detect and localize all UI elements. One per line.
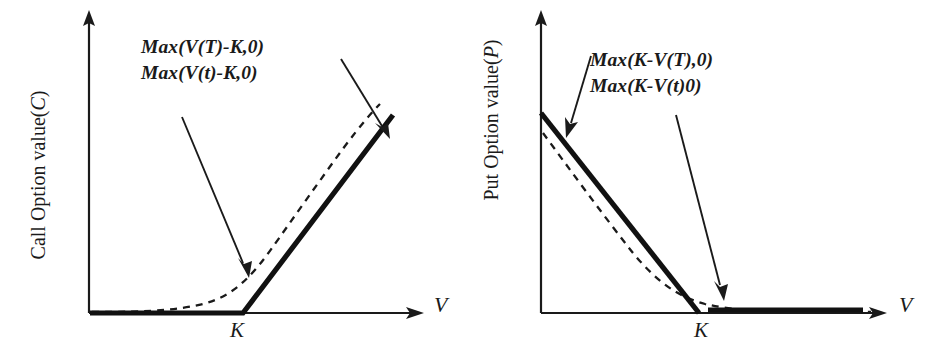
put-payoff-line-solid: [541, 113, 699, 313]
call-y-axis-title: Call Option value(C): [27, 91, 50, 260]
put-x-tick-label-k: K: [693, 318, 709, 342]
call-value-curve-dashed: [92, 104, 380, 312]
put-y-axis-title: Put Option value(P): [480, 39, 503, 200]
svg-text:Call Option value(C): Call Option value(C): [27, 91, 50, 260]
put-x-axis-label: V: [899, 292, 915, 317]
call-pointer-to-kink: [182, 117, 252, 278]
call-value-before-expiry-label: Max(V(t)-K,0): [140, 62, 258, 84]
call-option-chart: Max(V(T)-K,0) Max(V(t)-K,0) K V Call Opt…: [0, 0, 473, 364]
put-value-before-expiry-label: Max(K-V(t)0): [589, 75, 702, 97]
call-payoff-expiry-label: Max(V(T)-K,0): [140, 36, 264, 58]
put-y-axis-title-prefix: Put Option value(: [480, 58, 503, 201]
put-pointer-to-upper-line: [565, 56, 591, 138]
call-y-axis-title-var: C: [27, 97, 49, 111]
put-pointer-to-dashed-tail: [676, 115, 728, 301]
put-option-chart: Max(K-V(T),0) Max(K-V(t)0) K V Put Optio…: [473, 0, 946, 364]
call-y-axis-title-prefix: Call Option value(: [27, 110, 50, 259]
put-y-axis-title-suffix: ): [480, 39, 503, 46]
call-pointer-to-kink-arrowhead: [238, 258, 252, 278]
call-y-axis-title-suffix: ): [27, 91, 50, 98]
put-pointer-to-dashed-tail-arrowhead: [714, 281, 728, 301]
svg-text:Put Option value(P): Put Option value(P): [480, 39, 503, 200]
call-x-tick-label-k: K: [229, 318, 245, 342]
option-payoff-figure: Max(V(T)-K,0) Max(V(t)-K,0) K V Call Opt…: [0, 0, 946, 364]
call-pointer-to-upper-line: [341, 59, 390, 139]
put-value-curve-dashed: [543, 133, 871, 312]
call-payoff-line-solid: [90, 115, 393, 313]
put-annotation-labels: Max(K-V(T),0) Max(K-V(t)0): [589, 49, 713, 97]
call-x-axis-label: V: [434, 292, 450, 317]
call-annotation-labels: Max(V(T)-K,0) Max(V(t)-K,0): [140, 36, 264, 84]
put-y-axis: [535, 10, 547, 313]
put-y-axis-title-var: P: [480, 46, 502, 59]
put-payoff-expiry-label: Max(K-V(T),0): [589, 49, 713, 71]
call-y-axis: [83, 10, 95, 313]
